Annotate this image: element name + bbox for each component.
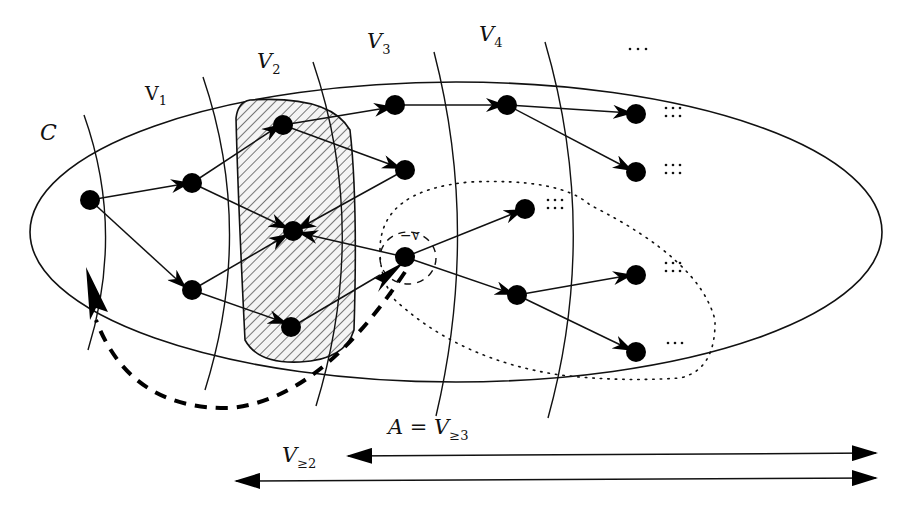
nodes bbox=[80, 95, 646, 362]
node-v4-mid bbox=[515, 199, 535, 219]
label-v1: V1 bbox=[144, 82, 167, 108]
node-v4-top bbox=[497, 95, 517, 115]
node-v2-top bbox=[273, 115, 293, 135]
node-v1-top bbox=[182, 173, 202, 193]
node-v5-2 bbox=[626, 162, 646, 182]
label-v4: V4 bbox=[479, 22, 502, 50]
layer-boundary-2 bbox=[203, 77, 230, 390]
label-c: C bbox=[40, 120, 57, 145]
node-v5-1 bbox=[626, 104, 646, 124]
range-arrow-vge2 bbox=[236, 478, 876, 481]
diagram-canvas: C V1 V2 V3 V4 −v A = V≥3 V≥2 bbox=[0, 0, 908, 518]
layered-graph-diagram: C V1 V2 V3 V4 −v A = V≥3 V≥2 bbox=[0, 0, 908, 518]
label-vge2: V≥2 bbox=[282, 443, 316, 471]
label-a-eq-vge3: A = V≥3 bbox=[386, 415, 468, 443]
node-v1-bottom bbox=[182, 280, 202, 300]
node-v4-bottom bbox=[507, 285, 527, 305]
node-v2-center bbox=[283, 221, 303, 241]
edges bbox=[90, 105, 631, 350]
node-v5-4 bbox=[626, 342, 646, 362]
node-v2-bottom bbox=[281, 317, 301, 337]
layer-boundary-4 bbox=[434, 52, 458, 416]
layer-boundary-5 bbox=[545, 42, 573, 418]
node-c0 bbox=[80, 190, 100, 210]
node-v5-3 bbox=[626, 265, 646, 285]
label-v: −v bbox=[400, 227, 420, 243]
set-c-ellipse bbox=[30, 82, 882, 382]
node-v bbox=[395, 247, 415, 267]
label-v3: V3 bbox=[367, 29, 390, 57]
dotted-reachable-region bbox=[380, 181, 715, 379]
node-v3-top bbox=[385, 95, 405, 115]
range-arrow-a bbox=[348, 453, 876, 456]
layer-boundary-1 bbox=[84, 115, 106, 350]
node-v3-mid bbox=[395, 160, 415, 180]
label-v2: V2 bbox=[257, 49, 280, 77]
